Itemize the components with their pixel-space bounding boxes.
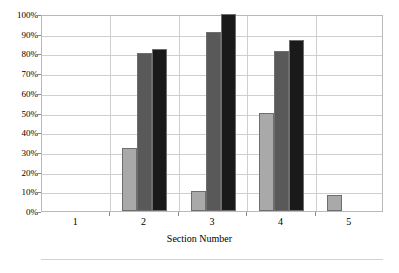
- y-axis-tick-label: 70%: [0, 70, 38, 79]
- bar: [122, 148, 137, 211]
- bar: [259, 113, 274, 212]
- y-axis-tick-mark: [37, 74, 41, 75]
- x-axis-tick-label: 3: [192, 215, 232, 229]
- x-axis-title: Section Number: [0, 233, 399, 245]
- bar: [221, 14, 236, 211]
- y-axis-tick-label: 100%: [0, 11, 38, 20]
- x-axis-tick-label: 4: [260, 215, 300, 229]
- bar: [206, 32, 221, 211]
- y-axis-tick-label: 50%: [0, 109, 38, 118]
- y-axis-tick-mark: [37, 15, 41, 16]
- x-axis-tick-mark: [109, 212, 110, 216]
- y-axis-tick-mark: [37, 35, 41, 36]
- y-axis-tick-label: 30%: [0, 148, 38, 157]
- plot-area: [41, 15, 383, 212]
- y-axis-tick-label: 0%: [0, 208, 38, 217]
- bar: [289, 40, 304, 211]
- gridline-vertical: [316, 16, 317, 211]
- x-axis-tick-label: 2: [124, 215, 164, 229]
- y-axis-tick-mark: [37, 94, 41, 95]
- bar: [137, 53, 152, 211]
- y-axis-tick-mark: [37, 153, 41, 154]
- x-axis-tick-mark: [315, 212, 316, 216]
- x-axis-tick-label: 1: [55, 215, 95, 229]
- x-axis-tick-mark: [246, 212, 247, 216]
- footer-divider: [41, 259, 383, 260]
- y-axis-tick-label: 10%: [0, 188, 38, 197]
- bar: [191, 191, 206, 211]
- gridline-vertical: [247, 16, 248, 211]
- gridline-vertical: [110, 16, 111, 211]
- y-axis-tick-label: 90%: [0, 30, 38, 39]
- y-axis-tick-label: 80%: [0, 50, 38, 59]
- y-axis-tick-label: 60%: [0, 89, 38, 98]
- y-axis-tick-label: 20%: [0, 168, 38, 177]
- y-axis-tick-mark: [37, 54, 41, 55]
- y-axis-tick-mark: [37, 133, 41, 134]
- y-axis-tick-label: 40%: [0, 129, 38, 138]
- bar-chart-figure: 0%10%20%30%40%50%60%70%80%90%100% 12345 …: [0, 0, 399, 273]
- y-axis-tick-mark: [37, 192, 41, 193]
- y-axis-tick-mark: [37, 114, 41, 115]
- y-axis-tick-mark: [37, 212, 41, 213]
- x-axis-tick-label: 5: [329, 215, 369, 229]
- x-axis-tick-mark: [178, 212, 179, 216]
- bar: [274, 51, 289, 211]
- bar: [152, 49, 167, 211]
- bar: [327, 195, 342, 211]
- gridline-vertical: [179, 16, 180, 211]
- y-axis-tick-mark: [37, 173, 41, 174]
- x-axis: 12345: [41, 215, 383, 231]
